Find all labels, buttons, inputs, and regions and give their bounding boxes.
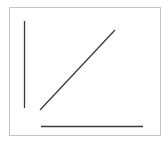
diagram-frame: [10, 8, 161, 136]
diagonal-line: [40, 30, 115, 110]
line-diagram: [0, 0, 168, 143]
